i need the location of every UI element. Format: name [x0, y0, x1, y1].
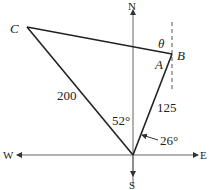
- label-52deg: 52°: [112, 113, 130, 128]
- side-CB: [27, 27, 172, 54]
- label-125: 125: [157, 100, 177, 115]
- label-26deg: 26°: [160, 133, 178, 148]
- label-200: 200: [57, 88, 77, 103]
- label-C: C: [10, 21, 19, 36]
- diagram-canvas: C B A θ 200 125 52° 26° N S E W: [0, 0, 209, 190]
- label-N: N: [128, 0, 136, 12]
- label-theta: θ: [158, 36, 165, 51]
- label-B: B: [177, 48, 185, 63]
- label-A: A: [154, 57, 163, 72]
- angle-pointer: [142, 135, 158, 140]
- label-S: S: [129, 179, 135, 190]
- label-W: W: [3, 149, 14, 161]
- side-OC: [27, 27, 133, 155]
- label-E: E: [200, 149, 207, 161]
- bearing-diagram: C B A θ 200 125 52° 26° N S E W: [0, 0, 209, 190]
